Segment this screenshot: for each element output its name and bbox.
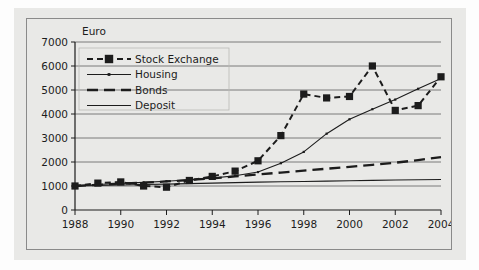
- legend-item-label: Stock Exchange: [135, 53, 219, 65]
- y-tick-label: 2000: [41, 156, 68, 168]
- data-point-marker: [186, 177, 193, 184]
- x-tick-label: 1990: [107, 218, 134, 230]
- x-tick-label: 2000: [336, 218, 363, 230]
- data-point-marker: [346, 93, 353, 100]
- data-point-marker: [326, 133, 328, 135]
- legend-swatch-marker: [105, 55, 113, 63]
- x-tick-label: 2002: [382, 218, 409, 230]
- x-tick-label: 1998: [290, 218, 317, 230]
- y-tick-label: 6000: [41, 60, 68, 72]
- legend-item-label: Deposit: [135, 99, 175, 111]
- data-point-marker: [303, 151, 305, 153]
- data-point-marker: [209, 173, 216, 180]
- legend-swatch-marker: [108, 73, 111, 76]
- x-tick-label: 1996: [245, 218, 272, 230]
- data-point-marker: [394, 99, 396, 101]
- x-tick-label: 2004: [428, 218, 451, 230]
- data-point-marker: [392, 107, 399, 114]
- data-point-marker: [117, 178, 124, 185]
- line-chart: 0100020003000400050006000700019881990199…: [27, 19, 451, 249]
- data-point-marker: [371, 108, 373, 110]
- legend-item-label: Housing: [135, 68, 178, 80]
- data-point-marker: [71, 182, 78, 189]
- data-point-marker: [417, 88, 419, 90]
- chart-frame: 0100020003000400050006000700019881990199…: [26, 18, 452, 250]
- data-point-marker: [280, 162, 282, 164]
- data-point-marker: [369, 62, 376, 69]
- data-point-marker: [415, 102, 422, 109]
- data-point-marker: [234, 175, 236, 177]
- y-tick-label: 7000: [41, 36, 68, 48]
- y-tick-label: 5000: [41, 84, 68, 96]
- data-point-marker: [348, 118, 350, 120]
- y-tick-label: 4000: [41, 108, 68, 120]
- y-tick-label: 3000: [41, 132, 68, 144]
- data-point-marker: [323, 94, 330, 101]
- x-tick-label: 1992: [153, 218, 180, 230]
- figure-container: 0100020003000400050006000700019881990199…: [0, 0, 479, 270]
- data-point-marker: [254, 157, 261, 164]
- data-point-marker: [257, 171, 259, 173]
- data-point-marker: [140, 182, 147, 189]
- data-point-marker: [437, 73, 444, 80]
- x-tick-label: 1988: [62, 218, 89, 230]
- y-tick-label: 1000: [41, 180, 68, 192]
- data-point-marker: [232, 168, 239, 175]
- data-point-marker: [165, 180, 167, 182]
- y-axis-unit-label: Euro: [82, 25, 106, 37]
- data-point-marker: [300, 90, 307, 97]
- data-point-marker: [94, 180, 101, 187]
- legend-item-label: Bonds: [135, 84, 167, 96]
- x-tick-label: 1994: [199, 218, 226, 230]
- data-point-marker: [277, 132, 284, 139]
- y-tick-label: 0: [61, 204, 68, 216]
- data-point-marker: [163, 184, 170, 191]
